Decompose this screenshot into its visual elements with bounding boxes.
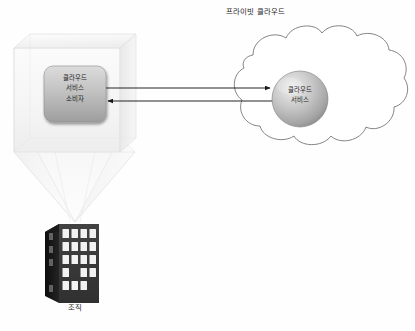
building-window [81, 268, 88, 277]
diagram-canvas [0, 0, 415, 331]
building-window [72, 255, 79, 264]
private-cloud-title: 프라이빗 클라우드 [48, 7, 415, 17]
building-window [63, 242, 70, 251]
building-window [72, 242, 79, 251]
cloud-service-node[interactable] [272, 71, 328, 127]
cube-right-face [120, 34, 136, 152]
building-window [72, 229, 79, 238]
building-window [90, 268, 97, 277]
building-window [90, 242, 97, 251]
building-window [90, 255, 97, 264]
sphere-highlight [277, 78, 303, 95]
building-window [81, 281, 88, 290]
building-window [63, 281, 70, 290]
organization-building [45, 224, 99, 303]
building-window [63, 255, 70, 264]
service-node-sphere [272, 71, 328, 127]
building-side-window [49, 285, 53, 292]
building-window [63, 268, 70, 277]
building-window [72, 281, 79, 290]
glass-container-shape [14, 34, 136, 222]
building-window [81, 242, 88, 251]
consumer-node-box [44, 66, 106, 122]
building-side-window [49, 233, 53, 240]
building-window [63, 229, 70, 238]
building-window [81, 229, 88, 238]
organization-label: 조직 [0, 303, 150, 313]
building-window [90, 229, 97, 238]
cube-top-face [14, 34, 136, 48]
building-window [81, 255, 88, 264]
cloud-architecture-diagram: 프라이빗 클라우드 클라우드 서비스 소비자 클라우드 서비스 조직 [0, 0, 415, 331]
building-side-window [49, 246, 53, 253]
cloud-service-consumer-node[interactable] [44, 66, 106, 122]
building-side-window [49, 259, 53, 266]
